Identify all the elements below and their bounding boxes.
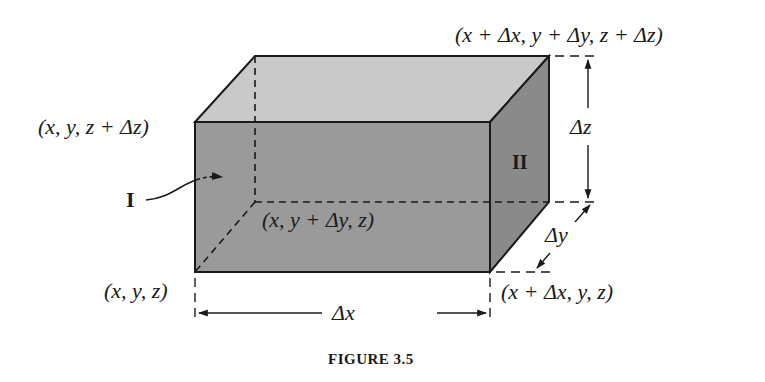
face-I-pointer bbox=[146, 180, 196, 200]
label-origin: (x, y, z) bbox=[104, 278, 168, 303]
label-top-front-left: (x, y, z + Δz) bbox=[38, 114, 149, 139]
label-face-II: II bbox=[512, 151, 528, 173]
label-bottom-front-right: (x + Δx, y, z) bbox=[501, 279, 613, 304]
label-dz: Δz bbox=[569, 114, 592, 139]
label-dx: Δx bbox=[331, 300, 355, 325]
label-face-I: I bbox=[126, 187, 135, 212]
top-face bbox=[195, 56, 549, 122]
box-diagram: (x + Δx, y + Δy, z + Δz) (x, y, z + Δz) … bbox=[0, 0, 765, 382]
label-dy: Δy bbox=[544, 222, 568, 247]
label-top-back-right: (x + Δx, y + Δy, z + Δz) bbox=[455, 22, 663, 47]
figure-caption: FIGURE 3.5 bbox=[328, 351, 414, 367]
front-face-I bbox=[195, 122, 490, 272]
label-hidden-back-left: (x, y + Δy, z) bbox=[262, 207, 374, 232]
